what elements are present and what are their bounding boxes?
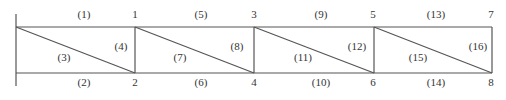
node-label: 6 bbox=[370, 76, 376, 88]
member-label: (12) bbox=[348, 40, 367, 53]
member-label: (14) bbox=[427, 76, 446, 89]
node-label: 5 bbox=[370, 8, 376, 20]
member-label: (10) bbox=[312, 76, 331, 89]
member-label: (1) bbox=[78, 8, 91, 21]
member-label: (7) bbox=[174, 51, 187, 64]
node-label: 4 bbox=[251, 76, 257, 88]
member-label: (4) bbox=[115, 40, 128, 53]
node-label: 3 bbox=[251, 8, 257, 20]
member-label: (11) bbox=[294, 51, 312, 64]
member-label: (5) bbox=[195, 8, 208, 21]
node-label: 8 bbox=[488, 76, 494, 88]
member-label: (8) bbox=[231, 40, 244, 53]
member-label: (13) bbox=[427, 8, 446, 21]
member-label: (15) bbox=[409, 51, 428, 64]
truss-diagram: 12345678(1)(2)(3)(4)(5)(6)(7)(8)(9)(10)(… bbox=[0, 0, 506, 100]
member-label: (3) bbox=[58, 51, 71, 64]
member-label: (9) bbox=[315, 8, 328, 21]
member-label: (16) bbox=[469, 40, 488, 53]
member-label: (2) bbox=[78, 76, 91, 89]
node-label: 1 bbox=[132, 8, 138, 20]
node-label: 7 bbox=[488, 8, 494, 20]
member-label: (6) bbox=[195, 76, 208, 89]
node-label: 2 bbox=[132, 76, 138, 88]
